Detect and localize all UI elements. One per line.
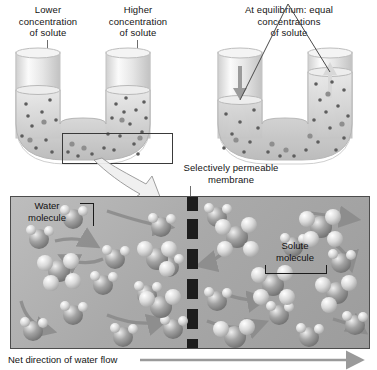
label-higher-concentration: Higher concentration of solute (92, 4, 184, 39)
caption-net-flow: Net direction of water flow (8, 354, 117, 365)
u-tube-right (210, 48, 376, 174)
label-lower-concentration: Lower concentration of solute (4, 4, 92, 39)
selectively-permeable-membrane (187, 196, 198, 349)
label-equilibrium: At equilibrium: equal concentrations of … (226, 4, 352, 39)
net-flow-arrow (140, 352, 370, 368)
water-molecule-bracket (80, 203, 94, 226)
label-selectively-permeable-membrane: Selectively permeable membrane (148, 162, 314, 185)
figure-root: Lower concentration of solute Higher con… (0, 0, 377, 370)
label-water-molecule: Water molecule (16, 200, 78, 223)
solute-molecule-bracket (265, 265, 327, 274)
label-solute-molecule: Solute molecule (262, 240, 328, 263)
water-molecules-left (20, 205, 188, 347)
